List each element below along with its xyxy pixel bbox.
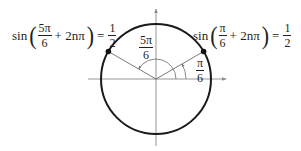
equals-sign: = bbox=[97, 28, 104, 44]
result-numerator: 1 bbox=[108, 22, 116, 36]
left-equation: sin ( 5π 6 + 2nπ ) = 1 2 bbox=[12, 22, 117, 49]
close-paren: ) bbox=[87, 23, 94, 48]
period-term: + 2nπ bbox=[55, 28, 85, 44]
angle-numerator: π bbox=[219, 22, 227, 36]
angle-arc-5pi-over-6 bbox=[139, 59, 176, 79]
point-pi-over-6 bbox=[201, 49, 207, 55]
angle-label-5pi-over-6: 5π 6 bbox=[138, 33, 154, 61]
result-fraction: 1 2 bbox=[283, 22, 291, 49]
angle-label-denominator: 6 bbox=[143, 48, 149, 61]
angle-label-fraction: 5π 6 bbox=[139, 34, 153, 61]
angle-label-fraction: π 6 bbox=[196, 57, 204, 84]
open-paren: ( bbox=[29, 23, 36, 48]
right-equation: sin ( π 6 + 2nπ ) = 1 2 bbox=[193, 22, 292, 49]
result-numerator: 1 bbox=[283, 22, 291, 36]
sin-function: sin bbox=[12, 28, 27, 44]
angle-denominator: 6 bbox=[42, 36, 48, 49]
angle-label-numerator: 5π bbox=[139, 34, 153, 48]
period-term: + 2nπ bbox=[230, 28, 260, 44]
angle-numerator: 5π bbox=[38, 22, 52, 36]
angle-label-numerator: π bbox=[196, 57, 204, 71]
result-denominator: 2 bbox=[284, 36, 290, 49]
open-paren: ( bbox=[210, 23, 217, 48]
close-paren: ) bbox=[262, 23, 269, 48]
equals-sign: = bbox=[272, 28, 279, 44]
angle-label-denominator: 6 bbox=[197, 71, 203, 84]
angle-arc-pi-over-6 bbox=[182, 64, 186, 79]
angle-fraction: 5π 6 bbox=[38, 22, 52, 49]
result-denominator: 2 bbox=[109, 36, 115, 49]
sin-function: sin bbox=[193, 28, 208, 44]
angle-fraction: π 6 bbox=[219, 22, 227, 49]
angle-label-pi-over-6: π 6 bbox=[195, 56, 205, 84]
angle-denominator: 6 bbox=[220, 36, 226, 49]
result-fraction: 1 2 bbox=[108, 22, 116, 49]
